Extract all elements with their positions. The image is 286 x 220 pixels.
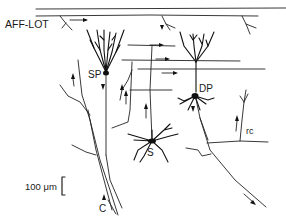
vertical-fiber-left xyxy=(112,62,132,128)
assoc-arrow-3 xyxy=(173,71,178,75)
lot-collateral-arrow xyxy=(160,25,164,30)
up-arrow-left xyxy=(71,73,75,79)
lot-collateral-right xyxy=(242,16,256,34)
pial-surface-line xyxy=(36,8,286,9)
rc-label: rc xyxy=(246,127,254,136)
neuron-diagram: AFF-LOT SP DP S rc C 100 μm xyxy=(0,0,286,220)
c-label: C xyxy=(99,204,106,214)
dp-axon-arrow xyxy=(191,106,195,112)
right-descending-axon xyxy=(200,118,266,207)
sp-label: SP xyxy=(88,70,101,80)
up-arrow-mid xyxy=(124,90,128,96)
rc-branch xyxy=(207,141,268,143)
lot-collateral-left xyxy=(60,16,72,30)
s-label: S xyxy=(147,148,154,158)
assoc-arrow-1 xyxy=(159,43,164,47)
up-arrow-s xyxy=(144,103,148,109)
mid-left-fiber xyxy=(122,70,132,90)
rc-arrow xyxy=(235,115,239,121)
assoc-fiber-2 xyxy=(122,60,240,61)
left-side-branch xyxy=(60,85,96,155)
left-branch-fiber xyxy=(78,60,118,215)
sp-neuron xyxy=(87,30,124,155)
dp-label: DP xyxy=(199,84,213,94)
scale-label: 100 μm xyxy=(25,182,57,192)
lot-collateral-mid xyxy=(162,16,175,30)
lot-fiber-line xyxy=(36,15,258,16)
aff-lot-label: AFF-LOT xyxy=(5,19,49,30)
lot-arrow-head xyxy=(83,18,88,22)
c-arrow xyxy=(102,194,106,200)
scale-bar xyxy=(62,177,65,195)
